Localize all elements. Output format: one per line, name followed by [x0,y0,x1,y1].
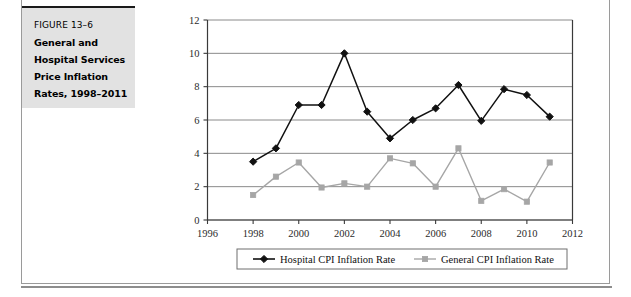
x-tick-label-1996: 1996 [197,228,218,239]
data-point-2007 [456,146,461,151]
data-point-2000 [295,101,302,108]
y-tick-label-2: 2 [194,181,199,192]
data-point-2005 [410,161,415,166]
data-point-1999 [273,174,278,179]
chart-legend: Hospital CPI Inflation RateGeneral CPI I… [237,249,567,269]
legend-key-marker-general [422,256,427,261]
data-point-2001 [319,185,324,190]
data-point-2009 [501,187,506,192]
y-tick-label-6: 6 [194,115,199,126]
legend-label-hospital: Hospital CPI Inflation Rate [280,254,396,265]
chart-gridlines [208,20,573,220]
y-tick-label-4: 4 [194,148,200,159]
y-axis-tick-labels: 024681012 [189,15,208,226]
series-hospital-cpi [250,50,554,166]
x-tick-label-2012: 2012 [562,228,583,239]
y-tick-label-8: 8 [194,81,199,92]
data-point-1998 [250,158,257,165]
data-point-2003 [365,184,370,189]
data-point-2006 [433,184,438,189]
data-point-1999 [272,145,279,152]
data-point-2008 [479,198,484,203]
x-tick-label-2000: 2000 [288,228,309,239]
y-tick-label-12: 12 [189,15,200,26]
y-tick-label-0: 0 [194,215,199,226]
x-tick-label-2006: 2006 [425,228,446,239]
x-tick-label-2002: 2002 [334,228,355,239]
series-line [253,148,550,201]
y-tick-label-10: 10 [189,48,200,59]
chart-canvas: 024681012 199619982000200220042006200820… [0,0,631,297]
line-chart: 024681012 199619982000200220042006200820… [0,0,631,297]
x-tick-label-2004: 2004 [380,228,402,239]
x-tick-label-2010: 2010 [516,228,537,239]
series-general-cpi [251,146,553,205]
data-point-2002 [342,181,347,186]
legend-label-general: General CPI Inflation Rate [441,254,554,265]
data-point-2010 [524,199,529,204]
data-point-2001 [318,101,325,108]
data-point-1998 [251,192,256,197]
x-tick-label-1998: 1998 [243,228,264,239]
chart-series-layer [250,50,554,205]
x-axis-tick-labels: 199619982000200220042006200820102012 [197,220,583,239]
data-point-2000 [296,160,301,165]
data-point-2004 [387,156,392,161]
data-point-2002 [341,50,348,57]
data-point-2011 [547,160,552,165]
x-tick-label-2008: 2008 [471,228,492,239]
